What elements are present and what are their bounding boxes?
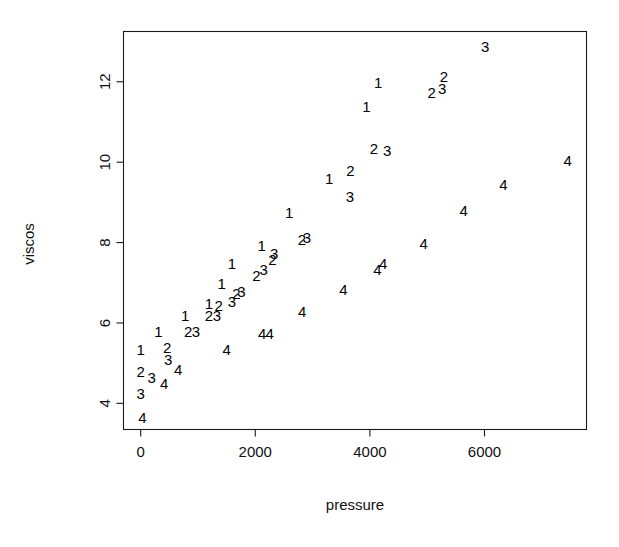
x-axis-ticks: 0200040006000 [137,430,502,460]
y-axis-title: viscos [20,223,37,265]
data-point-3: 3 [147,369,155,386]
data-point-3: 3 [228,293,236,310]
data-point-1: 1 [362,98,370,115]
data-point-2: 2 [137,363,145,380]
y-tick-label: 4 [96,399,113,407]
data-point-4: 4 [420,235,428,252]
data-point-1: 1 [285,204,293,221]
data-point-1: 1 [325,170,333,187]
data-point-2: 2 [370,140,378,157]
x-axis-title: pressure [326,496,384,513]
data-point-3: 3 [213,307,221,324]
plot-frame [124,32,587,430]
data-point-3: 3 [192,323,200,340]
data-point-4: 4 [265,325,273,342]
data-point-1: 1 [374,74,382,91]
data-point-3: 3 [137,385,145,402]
data-point-4: 4 [563,152,571,169]
data-point-1: 1 [257,237,265,254]
data-point-3: 3 [237,283,245,300]
x-tick-label: 6000 [468,443,501,460]
x-tick-label: 2000 [239,443,272,460]
y-tick-label: 8 [96,238,113,246]
data-point-1: 1 [154,323,162,340]
data-point-3: 3 [164,351,172,368]
data-point-1: 1 [228,255,236,272]
data-point-2: 2 [428,84,436,101]
data-point-3: 3 [303,229,311,246]
x-tick-label: 0 [137,443,145,460]
y-tick-label: 6 [96,319,113,327]
data-point-4: 4 [138,409,146,426]
data-point-4: 4 [339,281,347,298]
data-point-4: 4 [379,255,387,272]
data-point-3: 3 [481,38,489,55]
data-point-4: 4 [160,375,168,392]
data-point-1: 1 [181,307,189,324]
data-point-4: 4 [174,361,182,378]
data-point-4: 4 [298,303,306,320]
data-point-3: 3 [383,142,391,159]
data-point-4: 4 [459,202,467,219]
scatter-plot-figure: 0200040006000 4681012 111111111112222222… [0,0,619,547]
data-point-3: 3 [346,188,354,205]
data-point-1: 1 [218,275,226,292]
data-point-4: 4 [222,341,230,358]
data-point-3: 3 [259,261,267,278]
data-point-3: 3 [438,80,446,97]
y-axis-ticks: 4681012 [96,73,123,407]
data-point-3: 3 [270,245,278,262]
data-point-1: 1 [137,341,145,358]
data-point-4: 4 [499,176,507,193]
chart-canvas: 0200040006000 4681012 111111111112222222… [0,0,619,547]
data-points-layer: 1111111111122222222222223333333333333344… [137,38,572,427]
plot-border [124,32,587,430]
y-tick-label: 10 [96,154,113,171]
data-point-2: 2 [346,162,354,179]
y-tick-label: 12 [96,73,113,90]
x-tick-label: 4000 [353,443,386,460]
